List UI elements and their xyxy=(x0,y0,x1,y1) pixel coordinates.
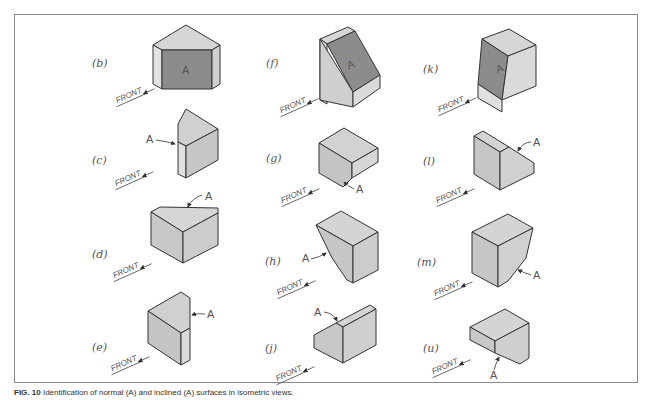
svg-text:FRONT: FRONT xyxy=(275,277,305,297)
drawing-l xyxy=(474,131,534,190)
isometric-drawings: A A A A A A A A A A A A FRONT FRONT FRON… xyxy=(0,0,649,400)
surface-a-d: A xyxy=(205,190,213,202)
drawing-g xyxy=(319,128,378,187)
drawing-k xyxy=(478,29,536,112)
svg-text:FRONT: FRONT xyxy=(432,278,462,298)
surface-a-b: A xyxy=(182,64,190,76)
svg-text:FRONT: FRONT xyxy=(434,185,464,205)
drawing-m xyxy=(472,214,533,287)
drawing-b xyxy=(153,25,220,89)
drawing-j xyxy=(314,305,376,363)
svg-text:FRONT: FRONT xyxy=(113,168,143,188)
svg-text:FRONT: FRONT xyxy=(114,85,144,105)
surface-a-m: A xyxy=(533,269,541,281)
surface-a-j: A xyxy=(314,306,322,318)
svg-text:FRONT: FRONT xyxy=(111,260,141,280)
surface-a-l: A xyxy=(533,136,541,148)
svg-text:FRONT: FRONT xyxy=(279,185,309,205)
svg-text:FRONT: FRONT xyxy=(278,95,308,115)
svg-text:FRONT: FRONT xyxy=(436,94,466,114)
drawing-e xyxy=(148,292,190,365)
surface-a-c: A xyxy=(146,133,154,145)
figure-caption: FIG. 10 Identification of normal (A) and… xyxy=(14,388,294,397)
surface-a-g: A xyxy=(356,183,364,195)
drawing-h xyxy=(316,211,378,283)
figure-number: FIG. 10 xyxy=(14,388,41,397)
svg-text:FRONT: FRONT xyxy=(274,363,304,383)
surface-a-u: A xyxy=(490,369,498,381)
drawing-c xyxy=(178,109,218,178)
figure-caption-text: Identification of normal (A) and incline… xyxy=(43,388,294,397)
surface-a-e: A xyxy=(207,308,215,320)
surface-a-h: A xyxy=(302,252,310,264)
svg-text:FRONT: FRONT xyxy=(109,353,139,373)
drawing-d xyxy=(151,207,218,263)
svg-text:FRONT: FRONT xyxy=(430,356,460,376)
drawing-u xyxy=(470,309,529,364)
